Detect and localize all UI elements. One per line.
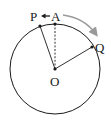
radius-OP: [40, 26, 55, 69]
label-O: O: [50, 74, 59, 89]
point-O: [53, 67, 56, 70]
label-P: P: [30, 9, 37, 24]
label-A: A: [51, 9, 61, 24]
point-P: [38, 24, 41, 27]
curved-arrow-icon: [63, 15, 95, 33]
label-Q: Q: [95, 40, 105, 55]
point-Q: [90, 45, 93, 48]
radius-OQ: [55, 47, 92, 69]
circle-diagram: P A Q O: [0, 0, 111, 124]
arrow-left-icon: [41, 14, 50, 19]
